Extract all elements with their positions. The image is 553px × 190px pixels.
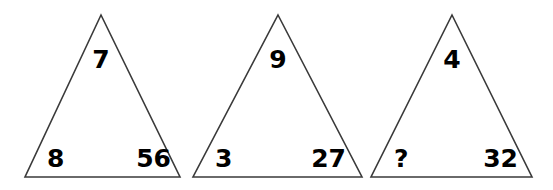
triangle-2-bottom-right-number: 27	[283, 146, 346, 171]
triangle-1-bottom-right-number: 56	[108, 146, 171, 171]
number-triangle-puzzle: 7 8 56 9 3 27 4 ? 32	[0, 0, 553, 190]
triangle-1-bottom-left-number: 8	[47, 146, 99, 171]
triangle-1-top-number: 7	[77, 47, 125, 72]
triangle-2-top-number: 9	[254, 47, 302, 72]
triangle-3-top-number: 4	[428, 47, 476, 72]
triangle-3-bottom-right-number: 32	[455, 146, 518, 171]
triangle-2-bottom-left-number: 3	[215, 146, 267, 171]
triangle-3-bottom-left-number: ?	[394, 146, 446, 171]
